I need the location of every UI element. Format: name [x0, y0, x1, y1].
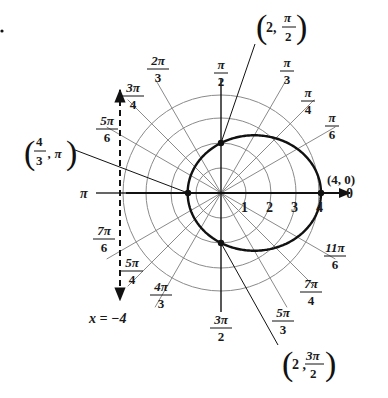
svg-text:π: π [217, 57, 225, 72]
svg-text:3: 3 [284, 72, 291, 87]
svg-text:π: π [328, 110, 336, 125]
svg-text:4: 4 [129, 272, 136, 287]
svg-text:7π: 7π [97, 223, 112, 238]
svg-text:3: 3 [291, 200, 298, 215]
svg-text:): ) [296, 8, 307, 46]
svg-text:6: 6 [101, 240, 108, 255]
angle-label-315: 7π4 [300, 276, 322, 308]
svg-text:2: 2 [285, 29, 292, 44]
svg-text:4: 4 [36, 134, 43, 149]
angle-label-90: π2 [214, 57, 228, 89]
svg-text:2π: 2π [150, 53, 166, 68]
svg-text:π: π [284, 10, 292, 25]
svg-text:4: 4 [130, 97, 137, 112]
svg-text:2: 2 [218, 74, 225, 89]
point-label-2-3pi-over-2: ( 2 , 3π 2 ) [282, 345, 336, 383]
svg-text:5π: 5π [100, 113, 115, 128]
svg-text:4π: 4π [153, 279, 169, 294]
svg-text:, π: , π [47, 146, 63, 161]
svg-text:1: 1 [241, 200, 248, 215]
point-label-2-pi-over-2: ( 2, π 2 ) [256, 8, 307, 46]
svg-text:3: 3 [280, 322, 287, 337]
angle-label-150: 5π6 [96, 113, 118, 145]
angle-label-45: π4 [301, 85, 315, 117]
svg-text:7π: 7π [304, 276, 319, 291]
leader-lines [75, 44, 278, 345]
svg-text:2,: 2, [266, 20, 277, 35]
point-label-4-0: (4, 0) [327, 172, 355, 187]
svg-text:3π: 3π [125, 80, 141, 95]
angle-labels: π2π3π4π62π33π45π67π65π44π33π25π37π411π6 [93, 53, 346, 344]
polar-ellipse-figure: 1 2 3 4 0 π x = −4 π2π3π4π62π33π45π67π65… [0, 0, 388, 398]
angle-label-300: 5π3 [272, 305, 294, 337]
point-label-4-3-pi: ( 4 3 , π ) [24, 134, 77, 172]
svg-text:3: 3 [158, 296, 165, 311]
angle-label-330: 11π6 [324, 240, 346, 272]
angle-label-270: 3π2 [210, 312, 232, 344]
angle-label-135: 3π4 [122, 80, 144, 112]
svg-text:4: 4 [308, 293, 315, 308]
radial-tick-labels: 1 2 3 4 [241, 200, 323, 215]
directrix-label: x = −4 [88, 311, 126, 326]
angle-label-210: 7π6 [93, 223, 115, 255]
svg-text:2: 2 [310, 366, 317, 381]
svg-text:3π: 3π [213, 312, 229, 327]
svg-text:): ) [66, 134, 77, 172]
svg-text:3π: 3π [305, 348, 321, 363]
svg-text:2 ,: 2 , [292, 357, 306, 372]
svg-text:5π: 5π [125, 255, 140, 270]
svg-text:6: 6 [332, 257, 339, 272]
svg-text:3: 3 [155, 70, 162, 85]
svg-text:6: 6 [104, 130, 111, 145]
angle-label-120: 2π3 [147, 53, 169, 85]
svg-text:5π: 5π [276, 305, 291, 320]
svg-text:2: 2 [218, 329, 225, 344]
angle-label-225: 5π4 [121, 255, 143, 287]
svg-text:π: π [283, 55, 291, 70]
angle-label-30: π6 [325, 110, 339, 142]
angle-label-60: π3 [280, 55, 294, 87]
svg-text:(: ( [24, 134, 35, 172]
svg-text:4: 4 [305, 102, 312, 117]
svg-text:3: 3 [36, 153, 43, 168]
svg-text:): ) [325, 345, 336, 383]
zero-label: 0 [346, 186, 353, 201]
svg-text:11π: 11π [325, 240, 345, 255]
pi-label: π [80, 186, 88, 201]
svg-text:2: 2 [266, 200, 273, 215]
svg-text:4: 4 [316, 200, 323, 215]
svg-text:6: 6 [329, 127, 336, 142]
stray-dot [0, 29, 3, 32]
svg-text:π: π [304, 85, 312, 100]
